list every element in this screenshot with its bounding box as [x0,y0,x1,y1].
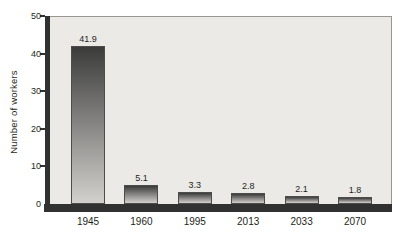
y-axis-title: Number of workers [8,70,19,154]
bar-1945 [71,46,105,204]
x-tick-label: 2070 [330,216,380,227]
y-axis-line [45,16,50,204]
x-axis-line [44,204,392,212]
y-tick-label: 50 [14,11,41,21]
bar-2033 [285,196,319,204]
bar-2013 [231,193,265,204]
bar-value-label: 41.9 [63,34,113,44]
x-tick-label: 2013 [223,216,273,227]
bar-value-label: 2.8 [223,181,273,191]
bar-1995 [178,192,212,204]
bar-1960 [124,185,158,204]
bar-value-label: 5.1 [116,173,166,183]
y-tick-label: 20 [14,124,41,134]
y-tick-label: 0 [14,199,41,209]
bar-chart: Number of workers 0102030405041.919455.1… [0,0,409,239]
bar-value-label: 3.3 [170,180,220,190]
x-tick-label: 2033 [277,216,327,227]
x-tick-label: 1945 [63,216,113,227]
bar-value-label: 2.1 [277,184,327,194]
bar-2070 [338,197,372,204]
y-tick-label: 40 [14,49,41,59]
x-tick-label: 1960 [116,216,166,227]
bar-value-label: 1.8 [330,185,380,195]
x-tick-label: 1995 [170,216,220,227]
y-tick-label: 10 [14,161,41,171]
y-tick-label: 30 [14,86,41,96]
